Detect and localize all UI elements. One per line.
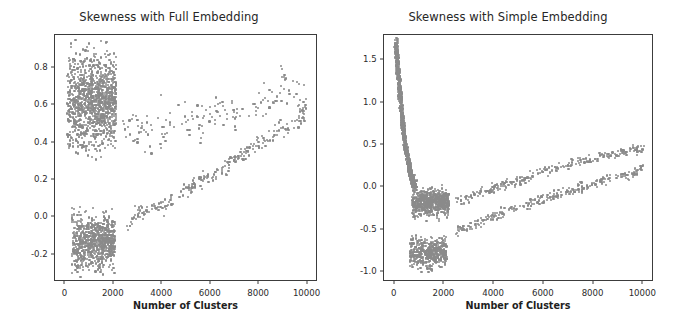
scatter-point <box>442 254 444 256</box>
scatter-point <box>162 201 164 203</box>
scatter-point <box>412 237 414 239</box>
scatter-point <box>137 215 139 217</box>
scatter-point <box>398 87 400 89</box>
scatter-point <box>129 225 131 227</box>
scatter-point <box>113 221 115 223</box>
scatter-point <box>154 207 156 209</box>
scatter-point <box>98 267 100 269</box>
scatter-point <box>201 125 203 127</box>
scatter-point <box>84 58 86 60</box>
scatter-point <box>470 194 472 196</box>
scatter-point <box>413 263 415 265</box>
scatter-point <box>422 246 424 248</box>
scatter-point <box>95 53 97 55</box>
scatter-point <box>99 130 101 132</box>
scatter-point <box>426 239 428 241</box>
scatter-point <box>243 155 245 157</box>
scatter-point <box>126 225 128 227</box>
scatter-point <box>419 243 421 245</box>
scatter-point <box>77 67 79 69</box>
scatter-point <box>549 171 551 173</box>
scatter-point <box>443 205 445 207</box>
scatter-point <box>94 67 96 69</box>
x-tick-mark <box>393 281 394 284</box>
scatter-point <box>504 182 506 184</box>
scatter-point <box>263 82 265 84</box>
scatter-point <box>192 118 194 120</box>
scatter-point <box>516 176 518 178</box>
scatter-point <box>565 193 567 195</box>
scatter-point <box>443 235 445 237</box>
scatter-point <box>81 144 83 146</box>
scatter-point <box>73 90 75 92</box>
scatter-point <box>430 236 432 238</box>
scatter-point <box>115 56 117 58</box>
scatter-point <box>278 129 280 131</box>
scatter-point <box>113 235 115 237</box>
scatter-point <box>628 179 630 181</box>
chart-title-simple-embedding: Skewness with Simple Embedding <box>339 10 677 24</box>
scatter-point <box>88 216 90 218</box>
scatter-point <box>90 141 92 143</box>
scatter-point <box>81 245 83 247</box>
x-tick-mark <box>64 281 65 284</box>
y-tick-label: 0.8 <box>34 62 48 72</box>
scatter-point <box>209 106 211 108</box>
scatter-point <box>95 158 97 160</box>
scatter-point <box>411 266 413 268</box>
scatter-point <box>207 173 209 175</box>
scatter-point <box>435 261 437 263</box>
scatter-point <box>88 259 90 261</box>
scatter-point <box>215 96 217 98</box>
scatter-point <box>606 174 608 176</box>
scatter-point <box>79 60 81 62</box>
scatter-point <box>112 98 114 100</box>
scatter-point <box>632 176 634 178</box>
scatter-point <box>262 142 264 144</box>
scatter-point <box>548 166 550 168</box>
scatter-point <box>521 176 523 178</box>
scatter-point <box>134 205 136 207</box>
scatter-point <box>293 127 295 129</box>
scatter-point <box>115 82 117 84</box>
scatter-point <box>151 208 153 210</box>
scatter-point <box>529 208 531 210</box>
scatter-point <box>485 191 487 193</box>
scatter-point <box>394 43 396 45</box>
scatter-point <box>114 147 116 149</box>
x-tick-mark <box>209 281 210 284</box>
scatter-point <box>79 220 81 222</box>
scatter-point <box>460 203 462 205</box>
scatter-point <box>556 170 558 172</box>
scatter-point <box>408 173 410 175</box>
scatter-point <box>108 54 110 56</box>
scatter-point <box>102 249 104 251</box>
scatter-point <box>428 251 430 253</box>
scatter-point <box>411 199 413 201</box>
scatter-point <box>280 85 282 87</box>
scatter-point <box>302 101 304 103</box>
scatter-point <box>426 267 428 269</box>
scatter-point <box>113 52 115 54</box>
scatter-point <box>79 276 81 278</box>
scatter-point <box>82 266 84 268</box>
x-tick-mark <box>642 281 643 284</box>
scatter-point <box>397 94 399 96</box>
scatter-point <box>569 165 571 167</box>
y-tick-mark <box>380 101 383 102</box>
scatter-point <box>488 190 490 192</box>
scatter-point <box>101 261 103 263</box>
scatter-point <box>463 202 465 204</box>
scatter-point <box>429 197 431 199</box>
scatter-point <box>587 186 589 188</box>
scatter-point <box>87 239 89 241</box>
scatter-point <box>415 258 417 260</box>
scatter-point <box>95 256 97 258</box>
scatter-point <box>241 108 243 110</box>
scatter-point <box>515 183 517 185</box>
scatter-point <box>87 50 89 52</box>
scatter-point <box>276 95 278 97</box>
y-tick-label: -1.0 <box>360 266 377 276</box>
scatter-point <box>411 179 413 181</box>
scatter-point <box>73 227 75 229</box>
